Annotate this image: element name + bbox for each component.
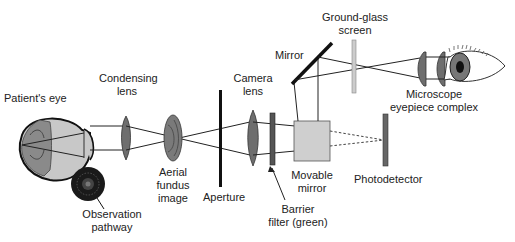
label-aerial-fundus-image: Aerial fundus image (154, 166, 192, 205)
label-aerial-line2: fundus (154, 179, 192, 192)
barrier-filter-icon (270, 113, 275, 165)
label-ground-glass-screen: Ground-glass screen (320, 11, 390, 37)
label-observation-line1: Observation (82, 208, 142, 221)
label-patients-eye: Patient's eye (4, 92, 67, 105)
label-microscope-eyepiece: Microscope eyepiece complex (384, 88, 484, 114)
label-camera-line2: lens (232, 85, 274, 98)
label-condensing-lens-line2: lens (99, 85, 155, 98)
label-aerial-line1: Aerial (154, 166, 192, 179)
label-condensing-lens-line1: Condensing (99, 72, 155, 85)
label-barrier-line2: filter (green) (268, 216, 328, 229)
observer-eye-icon (444, 45, 505, 81)
optical-diagram (0, 0, 515, 242)
label-ground-glass-line1: Ground-glass (320, 11, 390, 24)
label-ground-glass-line2: screen (320, 24, 390, 37)
label-microscope-line2: eyepiece complex (384, 101, 484, 114)
label-photodetector: Photodetector (354, 173, 423, 186)
movable-mirror-box (294, 121, 330, 161)
aperture-icon (219, 90, 222, 187)
camera-lens-icon (248, 110, 259, 166)
label-camera-lens: Camera lens (232, 72, 274, 98)
label-movable-line2: mirror (290, 182, 334, 195)
label-observation-line2: pathway (82, 221, 142, 234)
aerial-fundus-image-icon (164, 115, 182, 161)
observation-pathway-icon (71, 167, 105, 209)
label-aperture: Aperture (203, 191, 245, 204)
condensing-lens-icon (122, 116, 131, 160)
label-camera-line1: Camera (232, 72, 274, 85)
label-aerial-line3: image (154, 192, 192, 205)
label-microscope-line1: Microscope (384, 88, 484, 101)
ground-glass-screen-icon (352, 40, 356, 93)
eyepiece-lens-1-icon (418, 52, 426, 86)
label-movable-line1: Movable (290, 169, 334, 182)
label-condensing-lens: Condensing lens (99, 72, 155, 98)
label-movable-mirror: Movable mirror (290, 169, 334, 195)
label-mirror: Mirror (275, 49, 304, 62)
label-observation-pathway: Observation pathway (82, 208, 142, 234)
label-barrier-filter: Barrier filter (green) (268, 203, 328, 229)
label-barrier-line1: Barrier (268, 203, 328, 216)
photodetector-icon (383, 114, 388, 166)
